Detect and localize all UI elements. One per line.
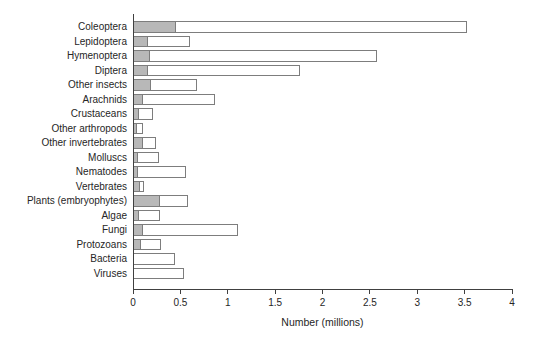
bar-described-segment bbox=[134, 196, 160, 207]
category-label: Viruses bbox=[94, 268, 127, 279]
bar-estimated-total bbox=[134, 22, 467, 33]
x-tick-label: 4 bbox=[509, 297, 515, 308]
bar-described-segment bbox=[134, 152, 138, 163]
category-label: Crustaceans bbox=[71, 108, 127, 119]
x-tick-label: 2 bbox=[320, 297, 326, 308]
bar-described-segment bbox=[134, 109, 139, 120]
bar-described-segment bbox=[134, 167, 138, 178]
bar-estimated-total bbox=[134, 51, 377, 62]
bar-estimated-total bbox=[134, 167, 186, 178]
x-tick-label: 1.5 bbox=[268, 297, 282, 308]
category-label: Plants (embryophytes) bbox=[27, 195, 127, 206]
bar-estimated-total bbox=[134, 254, 175, 265]
bar-described-segment bbox=[134, 225, 143, 236]
x-tick-label: 0 bbox=[130, 297, 136, 308]
bar-described-segment bbox=[134, 36, 148, 47]
category-label: Nematodes bbox=[76, 166, 127, 177]
species-numbers-bar-chart: ColeopteraLepidopteraHymenopteraDipteraO… bbox=[0, 0, 536, 344]
bar-estimated-total bbox=[134, 65, 300, 76]
category-label: Bacteria bbox=[90, 253, 127, 264]
x-axis-title: Number (millions) bbox=[281, 316, 363, 328]
bar-described-segment bbox=[134, 210, 139, 221]
category-label: Other insects bbox=[68, 79, 127, 90]
bar-described-segment bbox=[134, 181, 140, 192]
x-tick-label: 1 bbox=[225, 297, 231, 308]
category-label: Other invertebrates bbox=[41, 137, 127, 148]
category-label: Hymenoptera bbox=[67, 50, 127, 61]
x-tick-label: 2.5 bbox=[363, 297, 377, 308]
category-label: Vertebrates bbox=[76, 181, 127, 192]
bar-described-segment bbox=[134, 123, 137, 134]
category-label: Lepidoptera bbox=[74, 36, 127, 47]
bar-described-segment bbox=[134, 239, 141, 250]
category-label: Arachnids bbox=[83, 94, 127, 105]
chart-canvas: ColeopteraLepidopteraHymenopteraDipteraO… bbox=[0, 0, 536, 344]
category-label: Molluscs bbox=[88, 152, 127, 163]
category-label: Diptera bbox=[95, 65, 128, 76]
category-label: Coleoptera bbox=[78, 21, 127, 32]
category-label: Fungi bbox=[102, 224, 127, 235]
bar-described-segment bbox=[134, 22, 176, 33]
bar-described-segment bbox=[134, 65, 148, 76]
bar-estimated-total bbox=[134, 268, 184, 279]
bar-described-segment bbox=[134, 94, 143, 105]
bar-described-segment bbox=[134, 51, 150, 62]
bar-estimated-total bbox=[134, 225, 238, 236]
category-label: Protozoans bbox=[76, 239, 127, 250]
x-tick-label: 3 bbox=[414, 297, 420, 308]
x-tick-label: 3.5 bbox=[458, 297, 472, 308]
bar-described-segment bbox=[134, 80, 151, 91]
x-tick-label: 0.5 bbox=[173, 297, 187, 308]
bar-described-segment bbox=[134, 138, 143, 149]
bar-estimated-total bbox=[134, 94, 215, 105]
category-label: Algae bbox=[101, 210, 127, 221]
category-label: Other arthropods bbox=[51, 123, 127, 134]
